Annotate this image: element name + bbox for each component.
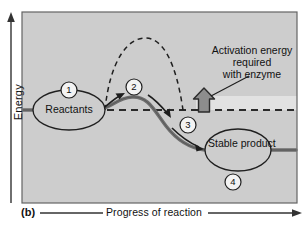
annotation-line-3: with enzyme — [200, 69, 304, 81]
reactants-label: Reactants — [36, 104, 102, 116]
x-axis-label: Progress of reaction — [106, 207, 202, 219]
stable-product-node — [205, 129, 271, 171]
activation-energy-annotation: Activation energy required with enzyme — [200, 45, 304, 80]
step-number-3: 3 — [181, 118, 195, 132]
stable-product-label: Stable product — [208, 137, 268, 149]
stable-product-label-line-1: Stable — [208, 137, 238, 149]
step-number-4: 4 — [226, 175, 240, 189]
annotation-line-2: required — [200, 57, 304, 69]
step-number-2: 2 — [127, 80, 141, 94]
step-number-1: 1 — [62, 83, 76, 97]
panel-label: (b) — [21, 206, 35, 218]
annotation-line-1: Activation energy — [200, 45, 304, 57]
y-axis-label: Energy — [12, 62, 24, 142]
stable-product-label-line-2: product — [241, 137, 276, 149]
energy-diagram-figure: Energy Progress of reaction (b) Activati… — [0, 0, 308, 229]
